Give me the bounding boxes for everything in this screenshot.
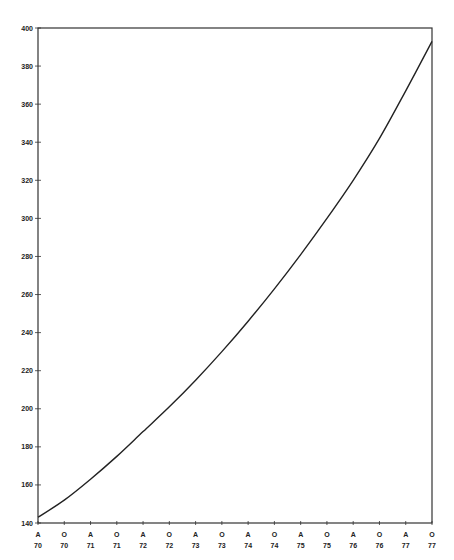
y-tick-label: 400 (21, 25, 33, 32)
x-tick-label-year: 76 (349, 542, 357, 549)
y-tick-label: 280 (21, 253, 33, 260)
x-tick-label-month: O (272, 531, 278, 538)
y-tick-label: 200 (21, 405, 33, 412)
line-chart: 1401601802002202402602803003203403603804… (0, 0, 454, 560)
y-tick-label: 380 (21, 63, 33, 70)
x-tick-label-month: O (62, 531, 68, 538)
y-tick-label: 360 (21, 101, 33, 108)
x-axis: A70O70A71O71A72O72A73O73A74O74A75O75A76O… (34, 521, 436, 549)
y-tick-label: 300 (21, 215, 33, 222)
y-tick-label: 160 (21, 481, 33, 488)
x-tick-label-year: 72 (165, 542, 173, 549)
x-tick-label-year: 77 (402, 542, 410, 549)
y-tick-label: 340 (21, 139, 33, 146)
x-tick-label-month: A (88, 531, 93, 538)
x-tick-label-year: 73 (192, 542, 200, 549)
x-tick-label-month: A (298, 531, 303, 538)
x-tick-label-month: O (429, 531, 435, 538)
x-tick-label-year: 72 (139, 542, 147, 549)
y-tick-label: 180 (21, 443, 33, 450)
x-tick-label-month: A (193, 531, 198, 538)
x-tick-label-month: O (219, 531, 225, 538)
x-tick-label-year: 75 (297, 542, 305, 549)
x-tick-label-month: O (114, 531, 120, 538)
x-tick-label-month: A (141, 531, 146, 538)
x-tick-label-month: A (246, 531, 251, 538)
plot-frame (38, 28, 432, 523)
data-line (38, 41, 432, 517)
x-tick-label-year: 71 (113, 542, 121, 549)
x-tick-label-month: O (167, 531, 173, 538)
x-tick-label-year: 76 (376, 542, 384, 549)
x-tick-label-month: O (377, 531, 383, 538)
x-tick-label-month: A (351, 531, 356, 538)
x-tick-label-year: 71 (87, 542, 95, 549)
x-tick-label-year: 70 (34, 542, 42, 549)
x-tick-label-year: 70 (60, 542, 68, 549)
y-tick-label: 220 (21, 367, 33, 374)
x-tick-label-year: 73 (218, 542, 226, 549)
x-tick-label-month: O (324, 531, 330, 538)
x-tick-label-year: 74 (271, 542, 279, 549)
y-tick-label: 240 (21, 329, 33, 336)
x-tick-label-month: A (403, 531, 408, 538)
x-tick-label-month: A (35, 531, 40, 538)
x-tick-label-year: 77 (428, 542, 436, 549)
y-tick-label: 320 (21, 177, 33, 184)
x-tick-label-year: 75 (323, 542, 331, 549)
x-tick-label-year: 74 (244, 542, 252, 549)
y-tick-label: 140 (21, 520, 33, 527)
y-tick-label: 260 (21, 291, 33, 298)
